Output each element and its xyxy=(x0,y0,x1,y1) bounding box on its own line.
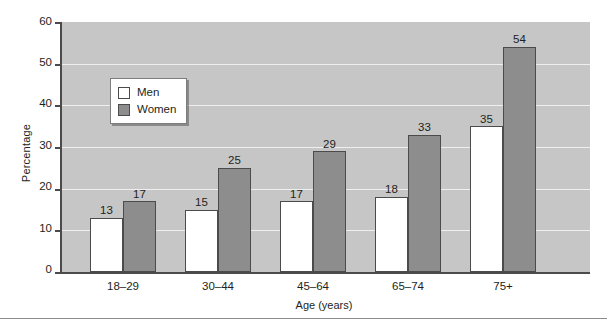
x-tick-label: 65–74 xyxy=(368,280,448,292)
y-tick-mark xyxy=(55,230,60,232)
y-tick-label: 30 xyxy=(12,140,52,152)
y-tick-mark xyxy=(55,64,60,66)
legend-label-women: Women xyxy=(137,104,176,116)
legend-label-men: Men xyxy=(137,87,159,99)
chart-legend: Men Women xyxy=(110,78,187,124)
gridline xyxy=(62,230,590,231)
y-tick-label: 10 xyxy=(12,223,52,235)
y-tick-label: 0 xyxy=(12,264,52,276)
bar-chart-figure: Percentage 60 50 40 30 20 10 0 13 17 15 xyxy=(0,0,607,326)
x-tick-label: 18–29 xyxy=(83,280,163,292)
x-axis-tick-labels: 18–29 30–44 45–64 65–74 75+ xyxy=(60,280,588,296)
plot-area xyxy=(60,22,590,274)
y-tick-mark xyxy=(55,147,60,149)
gridline xyxy=(62,64,590,65)
x-tick-label: 45–64 xyxy=(273,280,353,292)
gridline xyxy=(62,189,590,190)
y-tick-label: 50 xyxy=(12,57,52,69)
y-tick-mark xyxy=(55,105,60,107)
y-tick-label: 60 xyxy=(12,16,52,28)
bottom-divider xyxy=(0,318,607,319)
x-tick-label: 75+ xyxy=(463,280,543,292)
y-tick-mark xyxy=(55,189,60,191)
legend-entry-men: Men xyxy=(118,84,176,101)
y-tick-label: 20 xyxy=(12,181,52,193)
x-axis-title: Age (years) xyxy=(60,299,588,311)
legend-entry-women: Women xyxy=(118,101,176,118)
legend-swatch-women-icon xyxy=(118,104,130,116)
x-tick-label: 30–44 xyxy=(178,280,258,292)
y-tick-label: 40 xyxy=(12,98,52,110)
y-tick-mark xyxy=(55,272,60,274)
y-tick-mark xyxy=(55,22,60,24)
legend-swatch-men-icon xyxy=(118,87,130,99)
gridline xyxy=(62,147,590,148)
